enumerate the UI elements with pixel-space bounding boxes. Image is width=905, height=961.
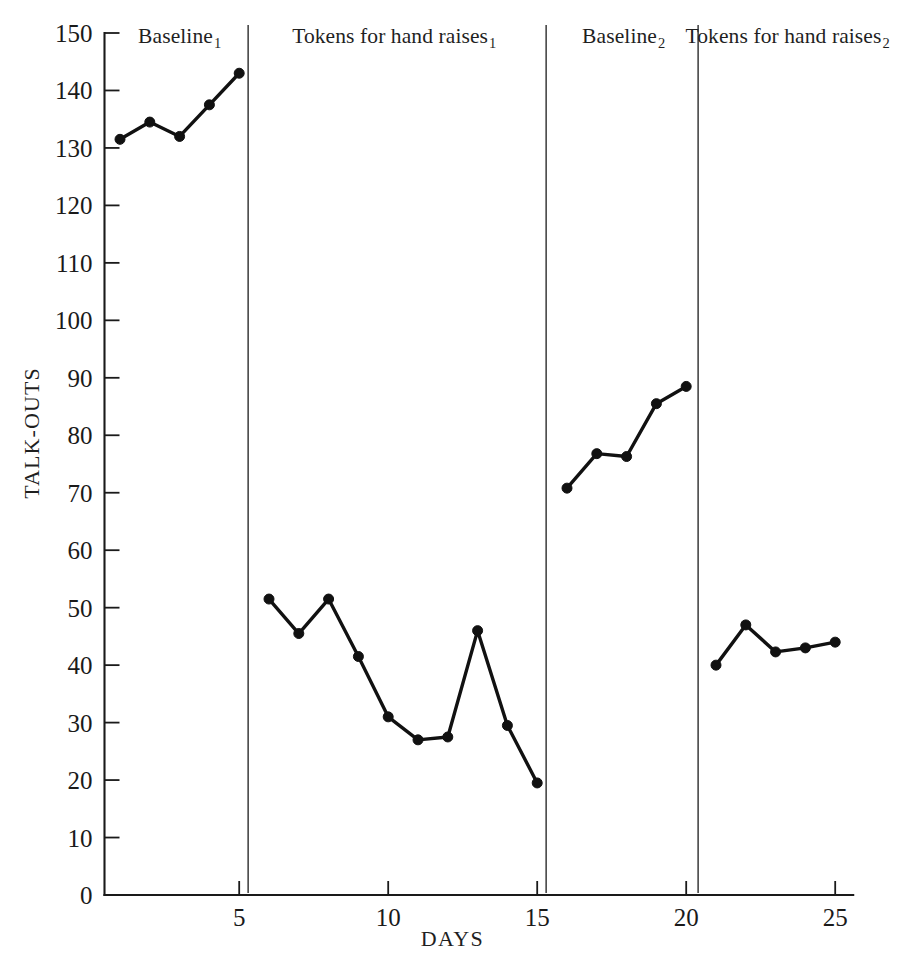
- y-axis-tick-label: 20: [68, 767, 93, 794]
- data-point-marker: [294, 629, 304, 639]
- y-axis-tick-label: 0: [80, 882, 93, 909]
- data-point-marker: [622, 452, 632, 462]
- phase-label-subscript: 1: [213, 35, 221, 51]
- data-point-marker: [413, 735, 423, 745]
- phase-label-subscript: 1: [488, 35, 496, 51]
- data-point-marker: [741, 620, 751, 630]
- data-point-marker: [502, 720, 512, 730]
- series-line-2: [269, 599, 537, 783]
- phase-label-1: Baseline1: [138, 24, 221, 49]
- y-axis-tick-label: 140: [55, 77, 93, 104]
- y-axis-title: TALK-OUTS: [19, 353, 45, 513]
- phase-label-3: Baseline2: [582, 24, 665, 49]
- data-point-marker: [443, 732, 453, 742]
- data-point-marker: [175, 131, 185, 141]
- data-point-marker: [771, 647, 781, 657]
- data-point-marker: [353, 652, 363, 662]
- data-point-marker: [264, 594, 274, 604]
- y-axis-tick-label: 30: [68, 710, 93, 737]
- line-chart-plot: 0102030405060708090100110120130140150510…: [0, 0, 905, 961]
- data-point-marker: [532, 778, 542, 788]
- y-axis-tick-label: 10: [68, 825, 93, 852]
- x-axis-title: DAYS: [0, 926, 905, 952]
- y-axis-tick-label: 100: [55, 307, 93, 334]
- chart-container: 0102030405060708090100110120130140150510…: [0, 0, 905, 961]
- data-point-marker: [115, 134, 125, 144]
- series-line-1: [120, 73, 239, 139]
- data-point-marker: [473, 626, 483, 636]
- phase-label-subscript: 2: [881, 35, 889, 51]
- y-axis-tick-label: 130: [55, 135, 93, 162]
- data-point-marker: [800, 643, 810, 653]
- series-line-3: [567, 386, 686, 488]
- phase-label-text: Tokens for hand raises: [686, 24, 882, 48]
- y-axis-tick-label: 90: [68, 365, 93, 392]
- phase-label-2: Tokens for hand raises1: [292, 24, 496, 49]
- tick-labels: 0102030405060708090100110120130140150510…: [55, 20, 848, 931]
- y-axis-tick-label: 80: [68, 422, 93, 449]
- data-point-marker: [651, 399, 661, 409]
- y-axis-tick-label: 50: [68, 595, 93, 622]
- y-axis-tick-label: 120: [55, 192, 93, 219]
- data-series: [115, 68, 840, 788]
- axes: [105, 33, 854, 895]
- series-line-4: [716, 625, 835, 665]
- data-point-marker: [830, 637, 840, 647]
- data-point-marker: [711, 660, 721, 670]
- y-axis-tick-label: 70: [68, 480, 93, 507]
- phase-label-text: Tokens for hand raises: [292, 24, 488, 48]
- data-point-marker: [383, 712, 393, 722]
- data-point-marker: [681, 381, 691, 391]
- y-axis-tick-label: 150: [55, 20, 93, 47]
- data-point-marker: [324, 594, 334, 604]
- phase-label-subscript: 2: [657, 35, 665, 51]
- phase-label-text: Baseline: [138, 24, 213, 48]
- phase-label-text: Baseline: [582, 24, 657, 48]
- y-axis-tick-label: 110: [56, 250, 93, 277]
- data-point-marker: [592, 449, 602, 459]
- data-point-marker: [145, 117, 155, 127]
- y-axis-tick-label: 60: [68, 537, 93, 564]
- phase-label-4: Tokens for hand raises2: [686, 24, 890, 49]
- y-axis-tick-label: 40: [68, 652, 93, 679]
- data-point-marker: [562, 483, 572, 493]
- data-point-marker: [204, 100, 214, 110]
- data-point-marker: [234, 68, 244, 78]
